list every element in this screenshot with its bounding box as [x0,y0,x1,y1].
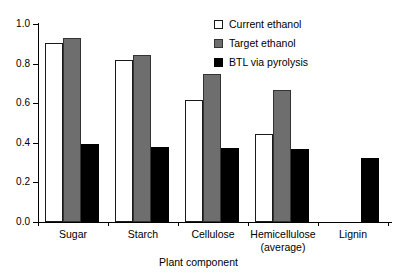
x-label-sugar: Sugar [38,228,108,241]
x-label-main: Hemicellulose [250,228,315,240]
bar-group [45,24,99,222]
bar-btl [361,158,379,222]
x-label-sub: (average) [248,241,318,254]
x-label-main: Cellulose [191,228,234,240]
legend-swatch-black-icon [214,58,223,67]
legend-label-current-ethanol: Current ethanol [229,18,301,31]
bar-target [203,74,221,223]
x-tick-mark [178,222,179,226]
x-axis-title: Plant component [0,256,397,268]
x-label-main: Starch [128,228,158,240]
bar-btl [151,147,169,222]
x-tick-mark [318,222,319,226]
y-tick-label: 0.4 [16,136,30,149]
x-tick-mark [108,222,109,226]
bar-btl [221,148,239,222]
x-label-hemicellulose: Hemicellulose(average) [248,228,318,254]
bar-current [185,100,203,222]
x-label-main: Sugar [59,228,87,240]
y-tick-label: 0.0 [16,215,30,228]
legend-label-target-ethanol: Target ethanol [229,37,296,50]
y-tick-label: 1.0 [16,17,30,30]
bar-current [45,43,63,222]
bar-btl [81,144,99,222]
bar-btl [291,149,309,222]
legend-item-current-ethanol: Current ethanol [214,15,308,34]
x-label-cellulose: Cellulose [178,228,248,241]
bar-chart: 0.00.20.40.60.81.0 SugarStarchCelluloseH… [0,0,397,275]
legend-item-target-ethanol: Target ethanol [214,34,308,53]
legend-item-btl-via-pyrolysis: BTL via pyrolysis [214,53,308,72]
x-tick-mark [38,222,39,226]
bar-group [115,24,169,222]
bar-target [133,55,151,222]
x-label-starch: Starch [108,228,178,241]
x-tick-mark [388,222,389,226]
x-tick-mark [248,222,249,226]
chart-legend: Current ethanol Target ethanol BTL via p… [214,15,308,72]
bar-target [63,38,81,222]
legend-swatch-white-icon [214,20,223,29]
legend-label-btl-via-pyrolysis: BTL via pyrolysis [229,56,308,69]
bar-target [273,90,291,222]
bar-current [255,134,273,222]
y-tick-label: 0.6 [16,96,30,109]
y-tick-label: 0.8 [16,57,30,70]
x-label-lignin: Lignin [318,228,388,241]
bar-group [325,24,379,222]
x-axis-line [38,222,392,223]
x-label-main: Lignin [339,228,367,240]
y-tick-label: 0.2 [16,175,30,188]
bar-current [115,60,133,222]
legend-swatch-gray-icon [214,39,223,48]
